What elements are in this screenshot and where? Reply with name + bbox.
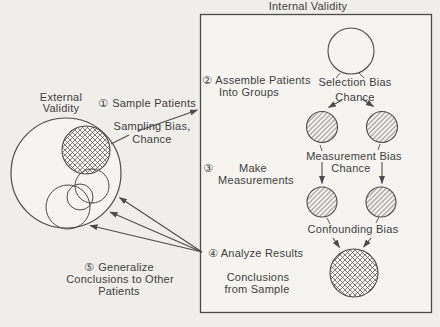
step3-label-line2: Measurements [218, 174, 294, 186]
sampled-subgroup-circle [62, 126, 110, 174]
group-b-circle [367, 112, 398, 143]
step3-number: ③ [203, 162, 213, 174]
internal-validity-title: Internal Validity [269, 0, 348, 12]
selection-bias-label-line2: Chance [335, 91, 374, 103]
internal-validity-box [201, 15, 432, 313]
conclusions-line1: Conclusions [227, 271, 290, 283]
selection-bias-label-line1: Selection Bias [318, 76, 391, 88]
measured-group-a-circle [307, 187, 337, 217]
step1-label-text: Sample Patients [112, 97, 196, 109]
generalize-arrow-1 [120, 198, 203, 253]
step5-number: ⑤ [84, 261, 94, 273]
step5-label-line3: Patients [98, 285, 140, 297]
step2-number: ② [202, 74, 212, 86]
conclusions-line2: from Sample [224, 283, 289, 295]
external-validity-label-line2: Validity [43, 102, 80, 114]
step4-label: Analyze Results [221, 247, 304, 259]
measurement-bias-label-line1: Measurement Bias [306, 150, 402, 162]
generalize-arrow-2 [110, 212, 202, 252]
step1-label: ①Sample Patients [98, 97, 196, 109]
step1-number: ① [98, 97, 108, 109]
measured-group-b-circle [366, 187, 396, 217]
step2-label-line1: Assemble Patients [215, 74, 311, 86]
results-circle [330, 249, 378, 297]
step5-label-line1: ⑤Generalize [84, 261, 154, 273]
group-a-circle [307, 112, 338, 143]
step2-label-line2: Into Groups [219, 86, 279, 98]
step5-label-line1-text: Generalize [98, 261, 154, 273]
sample-arrow-tail [111, 135, 129, 144]
sampling-bias-label-line2: Chance [132, 133, 171, 145]
step5-label-line2: Conclusions to Other [66, 273, 174, 285]
step4-number: ④ [208, 247, 218, 259]
measurement-bias-label-line2: Chance [331, 162, 370, 174]
confounding-bias-label: Confounding Bias [308, 223, 399, 235]
step3-label-line1: Make [239, 162, 267, 174]
validity-diagram: Internal Validity ② Assemble Patients In… [0, 0, 440, 327]
generalize-arrow-3 [90, 226, 202, 253]
